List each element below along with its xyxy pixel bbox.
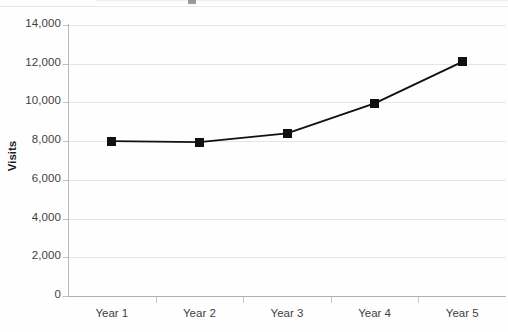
x-axis-tick-mark: [156, 296, 157, 303]
y-axis-tick-label: 8,000: [1, 133, 61, 145]
gridline: [68, 25, 506, 26]
gridline: [68, 257, 506, 258]
data-point-marker: [370, 99, 379, 108]
chart-screenshot: Visits 14,00012,00010,0008,0006,0004,000…: [0, 0, 508, 332]
gridline: [68, 102, 506, 103]
gridline: [68, 64, 506, 65]
y-axis-line: [68, 24, 69, 297]
y-axis-tick-label: 2,000: [1, 249, 61, 261]
series-line: [0, 0, 508, 332]
y-axis-tick-label: 12,000: [1, 56, 61, 68]
y-axis-tick-label: 10,000: [1, 94, 61, 106]
x-axis-tick-label: Year 4: [330, 307, 420, 319]
x-axis-tick-label: Year 1: [67, 307, 157, 319]
x-axis-line: [68, 296, 506, 297]
data-point-marker: [458, 57, 467, 66]
gridline: [68, 180, 506, 181]
x-axis-tick-label: Year 5: [417, 307, 507, 319]
gridline: [68, 219, 506, 220]
y-axis-tick-label: 0: [1, 288, 61, 300]
y-axis-tick-label: 4,000: [1, 211, 61, 223]
line-chart: Visits 14,00012,00010,0008,0006,0004,000…: [0, 0, 508, 332]
data-point-marker: [283, 129, 292, 138]
x-axis-tick-mark: [418, 296, 419, 303]
data-point-marker: [107, 137, 116, 146]
x-axis-tick-label: Year 2: [154, 307, 244, 319]
x-axis-tick-mark: [243, 296, 244, 303]
data-point-marker: [195, 138, 204, 147]
x-axis-tick-label: Year 3: [242, 307, 332, 319]
y-axis-tick-label: 14,000: [1, 17, 61, 29]
x-axis-tick-mark: [331, 296, 332, 303]
gridline: [68, 141, 506, 142]
y-axis-tick-label: 6,000: [1, 172, 61, 184]
